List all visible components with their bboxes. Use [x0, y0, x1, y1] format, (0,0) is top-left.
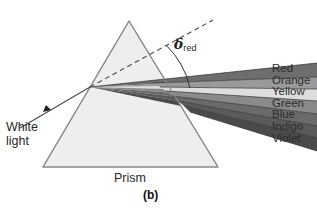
figure-canvas — [0, 0, 317, 208]
white-light-line2: light — [6, 134, 29, 148]
white-light-label: White light — [6, 120, 38, 148]
deviation-angle-label: δred — [174, 37, 197, 53]
legend-item-violet: Violet — [272, 133, 310, 145]
legend-item-red: Red — [272, 63, 310, 75]
panel-caption: (b) — [143, 189, 158, 201]
delta-subscript: red — [183, 43, 196, 53]
delta-symbol: δ — [174, 36, 183, 52]
legend-item-indigo: Indigo — [272, 121, 310, 133]
prism-label: Prism — [114, 172, 146, 185]
spectrum-color-legend: Red Orange Yellow Green Blue Indigo Viol… — [272, 63, 310, 144]
prism-dispersion-figure: White light δred Prism (b) Red Orange Ye… — [0, 0, 317, 208]
white-light-line1: White — [6, 120, 38, 134]
